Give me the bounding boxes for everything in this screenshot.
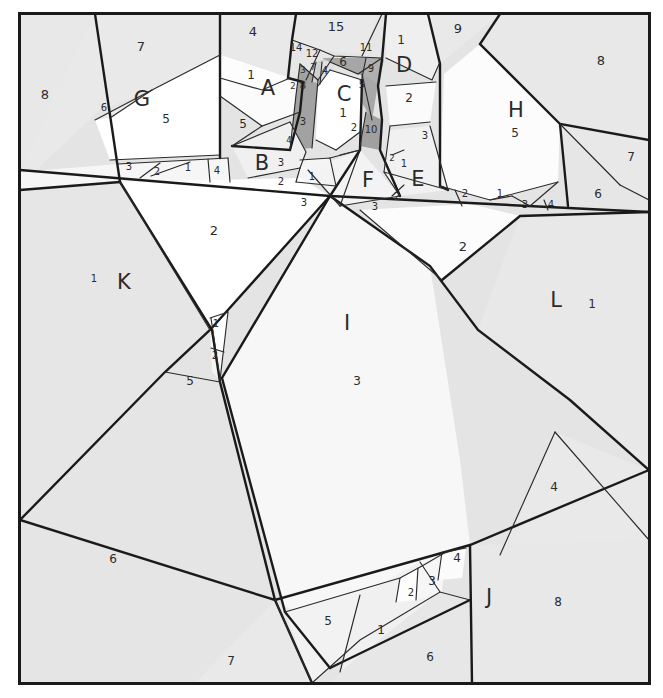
- region-letter-label-l: L: [550, 288, 562, 312]
- region-number-label: 2: [408, 587, 414, 598]
- region-number-label: 1: [213, 318, 219, 329]
- region-letter-label-b: B: [255, 151, 269, 175]
- region-number-label: 3: [372, 201, 378, 212]
- region-number-label: 6: [594, 187, 602, 201]
- region-number-label: 2: [394, 191, 400, 202]
- region-number-label: 2: [278, 176, 284, 187]
- region-number-label: 7: [227, 654, 235, 668]
- region-J: [470, 540, 649, 683]
- subdivision-diagram: ABCDEFGHIJKL 786541532143213211514121169…: [0, 0, 663, 698]
- figure-root: ABCDEFGHIJKL 786541532143213211514121169…: [0, 0, 663, 698]
- region-number-label: 8: [300, 80, 306, 91]
- region-letter-label-c: C: [337, 82, 352, 106]
- region-letter-label-g: G: [134, 87, 150, 111]
- region-number-label: 1: [91, 273, 97, 284]
- region-number-label: 10: [365, 124, 378, 135]
- region-number-label: 5: [162, 112, 170, 126]
- region-number-label: 2: [389, 153, 394, 163]
- region-number-label: 2: [210, 223, 218, 238]
- region-letter-label-j: J: [484, 585, 492, 609]
- region-number-label: 2: [405, 91, 413, 105]
- region-number-label: 7: [627, 150, 635, 164]
- region-letter-label-f: F: [362, 168, 374, 192]
- region-number-label: 4: [249, 24, 257, 39]
- region-letter-label-a: A: [261, 76, 276, 100]
- region-number-label: 3: [522, 199, 528, 210]
- region-number-label: 7: [310, 62, 315, 72]
- region-number-label: 3: [301, 197, 307, 208]
- region-number-label: 3: [278, 157, 284, 168]
- region-letter-label-i: I: [344, 311, 350, 335]
- region-number-label: 6: [339, 55, 347, 69]
- region-number-label: 6: [426, 650, 434, 664]
- region-number-label: 3: [126, 161, 132, 172]
- region-number-label: 4: [322, 65, 328, 76]
- region-number-label: 8: [41, 87, 49, 102]
- region-number-label: 1: [309, 171, 315, 182]
- region-number-label: 1: [339, 106, 347, 120]
- region-number-label: 7: [137, 39, 145, 54]
- region-number-label: 5: [511, 126, 519, 140]
- region-number-label: 4: [550, 480, 558, 494]
- region-number-label: 4: [214, 165, 220, 176]
- region-number-label: 5: [239, 117, 247, 131]
- region-number-label: 1: [497, 188, 503, 199]
- region-number-label: 5: [324, 614, 332, 628]
- region-number-label: 1: [247, 68, 255, 82]
- region-number-label: 3: [353, 374, 361, 388]
- region-number-label: 2: [462, 188, 468, 199]
- region-number-label: 3: [300, 116, 306, 127]
- region-number-label: 5: [186, 374, 194, 388]
- region-number-label: 15: [328, 19, 345, 34]
- region-number-label: 1: [588, 297, 596, 311]
- region-number-label: 2: [351, 122, 357, 133]
- region-number-label: 11: [360, 42, 373, 53]
- region-number-label: 4: [286, 135, 291, 145]
- region-number-label: 4: [548, 199, 554, 210]
- region-letter-label-d: D: [396, 53, 412, 77]
- region-number-label: 12: [306, 48, 319, 59]
- region-number-label: 1: [377, 623, 385, 637]
- region-number-label: 1: [185, 162, 191, 173]
- region-number-label: 3: [428, 574, 436, 588]
- region-number-label: 8: [597, 53, 605, 68]
- region-number-label: 8: [554, 595, 562, 609]
- region-number-label: 9: [454, 21, 462, 36]
- region-number-label: 2: [459, 239, 467, 254]
- region-number-label: 9: [368, 63, 374, 74]
- region-number-label: 3: [300, 65, 305, 75]
- region-number-label: 6: [101, 102, 107, 113]
- region-number-label: 2: [290, 81, 295, 91]
- region-letter-label-h: H: [508, 98, 524, 122]
- region-number-label: 4: [453, 551, 461, 565]
- region-number-label: 3: [422, 130, 428, 141]
- region-number-label: 2: [212, 350, 218, 361]
- region-number-label: 1: [397, 33, 405, 47]
- region-number-label: 14: [290, 42, 303, 53]
- region-number-label: 5: [359, 79, 365, 90]
- region-number-label: 2: [154, 166, 160, 177]
- region-number-label: 6: [109, 552, 117, 566]
- region-letter-label-e: E: [411, 167, 424, 191]
- region-number-label: 1: [401, 158, 407, 169]
- region-letter-label-k: K: [117, 270, 132, 294]
